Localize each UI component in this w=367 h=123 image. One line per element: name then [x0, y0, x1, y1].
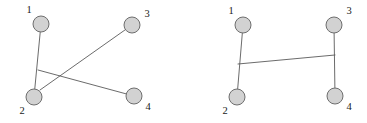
edge-2-3 — [40, 25, 132, 90]
node-label-3: 3 — [144, 8, 149, 19]
node-1 — [235, 17, 251, 33]
node-4 — [126, 88, 142, 104]
node-2 — [229, 89, 245, 105]
node-3 — [124, 17, 140, 33]
right-graph-svg: 1234 — [183, 0, 367, 123]
node-label-4: 4 — [145, 101, 151, 112]
node-label-4: 4 — [346, 101, 352, 112]
node-1 — [33, 16, 49, 32]
edge-1-2 — [34, 24, 41, 97]
node-3 — [326, 17, 342, 33]
right-graph-edges — [237, 25, 335, 97]
left-graph-nodes — [26, 16, 142, 105]
right-graph-nodes — [229, 17, 343, 105]
graph-panel-right: 1234 — [183, 0, 367, 123]
node-label-2: 2 — [222, 105, 227, 116]
node-label-2: 2 — [19, 105, 24, 116]
edge-2-3 — [238, 55, 335, 64]
edge-1-2 — [237, 25, 243, 97]
node-label-1: 1 — [26, 4, 31, 15]
graph-panel-left: 1234 — [0, 0, 183, 123]
figure-root: 1234 1234 — [0, 0, 367, 123]
node-label-3: 3 — [346, 5, 351, 16]
node-4 — [327, 88, 343, 104]
node-label-1: 1 — [228, 5, 233, 16]
left-graph-svg: 1234 — [0, 0, 183, 123]
left-graph-edges — [34, 24, 134, 97]
edge-3-4 — [334, 25, 335, 96]
edge-2-4 — [38, 70, 134, 96]
node-2 — [26, 89, 42, 105]
